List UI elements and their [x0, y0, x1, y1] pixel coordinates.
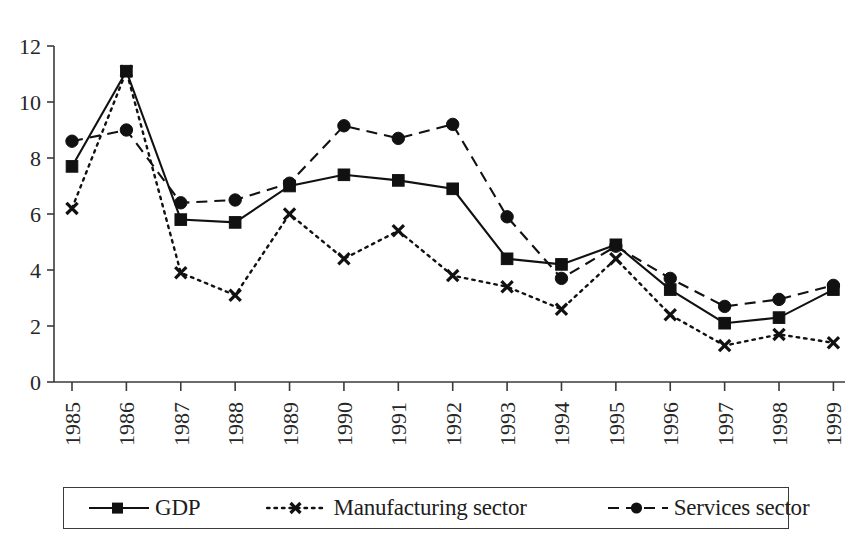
x-axis-tick-label: 1995: [604, 402, 629, 446]
data-point-marker: [447, 270, 458, 281]
data-point-marker: [338, 253, 349, 264]
y-axis-tick-label: 6: [30, 202, 41, 227]
data-point-marker: [284, 208, 295, 219]
data-point-marker: [827, 279, 839, 291]
data-point-marker: [773, 293, 785, 305]
y-axis-tick-label: 10: [19, 90, 41, 115]
data-point-marker: [773, 312, 785, 324]
y-axis-tick-label: 12: [19, 34, 41, 59]
x-axis-tick-label: 1987: [169, 402, 194, 446]
legend-item-services-sector: Services sector: [607, 488, 810, 528]
data-point-marker: [665, 309, 676, 320]
data-point-marker: [501, 253, 513, 265]
x-axis-tick-label: 1986: [114, 402, 139, 446]
data-point-marker: [338, 169, 350, 181]
chart-legend: GDP Manufacturing sector Services sector: [63, 487, 789, 529]
data-point-marker: [66, 161, 78, 173]
x-axis-tick-label: 1991: [386, 402, 411, 446]
x-axis-tick-label: 1985: [60, 402, 85, 446]
data-point-marker: [175, 214, 187, 226]
data-point-marker: [393, 175, 405, 187]
x-axis-tick-label: 1990: [332, 402, 357, 446]
data-point-marker: [501, 211, 513, 223]
x-axis-tick-label: 1992: [441, 402, 466, 446]
data-point-marker: [610, 253, 621, 264]
legend-label-manufacturing-sector: Manufacturing sector: [333, 495, 526, 521]
data-point-marker: [229, 194, 241, 206]
y-axis-tick-label: 2: [30, 314, 41, 339]
legend-label-gdp: GDP: [155, 495, 200, 521]
y-axis-tick-label: 0: [30, 370, 41, 395]
chart-figure: 0246810121985198619871988198919901991199…: [0, 0, 853, 546]
legend-label-services-sector: Services sector: [674, 495, 810, 521]
data-point-marker: [393, 225, 404, 236]
square-marker-icon: [88, 499, 150, 517]
y-axis-tick-label: 8: [30, 146, 41, 171]
x-axis-tick-label: 1996: [658, 402, 683, 446]
data-point-marker: [664, 272, 676, 284]
series-line-gdp: [72, 71, 833, 323]
x-axis-tick-label: 1997: [713, 402, 738, 446]
data-point-marker: [392, 132, 404, 144]
data-point-marker: [447, 118, 459, 130]
data-point-marker: [66, 135, 78, 147]
data-point-marker: [229, 217, 241, 229]
data-point-marker: [230, 290, 241, 301]
x-axis-tick-label: 1988: [223, 402, 248, 446]
y-axis-tick-label: 4: [30, 258, 41, 283]
data-point-marker: [718, 300, 730, 312]
data-point-marker: [283, 177, 295, 189]
data-point-marker: [447, 183, 459, 195]
data-point-marker: [120, 124, 132, 136]
plot-area: 0246810121985198619871988198919901991199…: [0, 0, 853, 480]
circle-marker-icon: [607, 499, 669, 517]
x-axis-tick-label: 1999: [821, 402, 846, 446]
data-point-marker: [610, 240, 622, 252]
data-point-marker: [719, 317, 731, 329]
data-point-marker: [556, 304, 567, 315]
data-point-marker: [66, 203, 77, 214]
x-axis-tick-label: 1993: [495, 402, 520, 446]
data-point-marker: [338, 120, 350, 132]
x-marker-icon: [266, 499, 328, 517]
data-point-marker: [556, 259, 568, 271]
data-point-marker: [664, 284, 676, 296]
x-axis-tick-label: 1989: [278, 402, 303, 446]
legend-item-manufacturing-sector: Manufacturing sector: [266, 488, 526, 528]
data-point-marker: [555, 272, 567, 284]
x-axis-tick-label: 1994: [549, 402, 574, 446]
data-point-marker: [175, 197, 187, 209]
legend-item-gdp: GDP: [88, 488, 200, 528]
x-axis-tick-label: 1998: [767, 402, 792, 446]
data-point-marker: [719, 340, 730, 351]
chart-svg: 0246810121985198619871988198919901991199…: [0, 0, 853, 480]
